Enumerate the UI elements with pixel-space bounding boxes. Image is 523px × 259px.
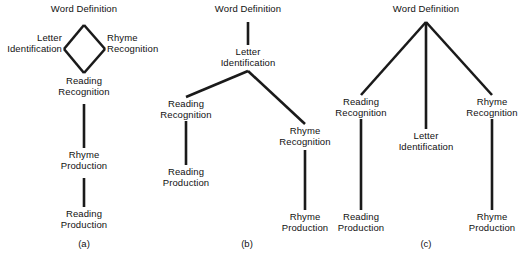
diagram-edge	[361, 22, 426, 95]
node-a-reading-production: Reading Production	[61, 209, 107, 230]
node-b-rhyme-recognition: Rhyme Recognition	[279, 126, 330, 147]
diagram-edge	[64, 49, 84, 73]
node-c-reading-production: Reading Production	[338, 212, 384, 233]
hierarchy-diagram-figure: Word DefinitionLetter IdentificationRhym…	[0, 0, 523, 259]
node-a-rhyme-recognition: Rhyme Recognition	[107, 33, 158, 54]
node-a-rhyme-production: Rhyme Production	[61, 150, 107, 171]
diagram-edge	[84, 25, 105, 49]
node-a-reading-recognition: Reading Recognition	[58, 76, 109, 97]
node-c-word-definition: Word Definition	[393, 4, 459, 15]
node-c-rhyme-recognition: Rhyme Recognition	[466, 97, 517, 118]
node-b-rhyme-production: Rhyme Production	[282, 212, 328, 233]
panel-caption-c: (c)	[420, 238, 431, 249]
panel-caption-a: (a)	[78, 238, 90, 249]
node-b-reading-production: Reading Production	[163, 167, 209, 188]
diagram-edge	[64, 25, 84, 49]
diagram-edge	[84, 49, 105, 73]
node-a-word-definition: Word Definition	[51, 4, 117, 15]
node-b-word-definition: Word Definition	[215, 4, 281, 15]
panel-caption-b: (b)	[241, 238, 253, 249]
diagram-edge	[426, 22, 492, 95]
node-b-letter-id: Letter Identification	[221, 47, 276, 68]
node-c-reading-recognition: Reading Recognition	[335, 97, 386, 118]
node-a-letter-id: Letter Identification	[7, 33, 62, 54]
node-c-rhyme-production: Rhyme Production	[469, 212, 515, 233]
node-b-reading-recognition: Reading Recognition	[160, 99, 211, 120]
diagram-edge	[186, 71, 248, 97]
node-c-letter-id: Letter Identification	[399, 131, 454, 152]
diagram-edge	[248, 71, 305, 124]
